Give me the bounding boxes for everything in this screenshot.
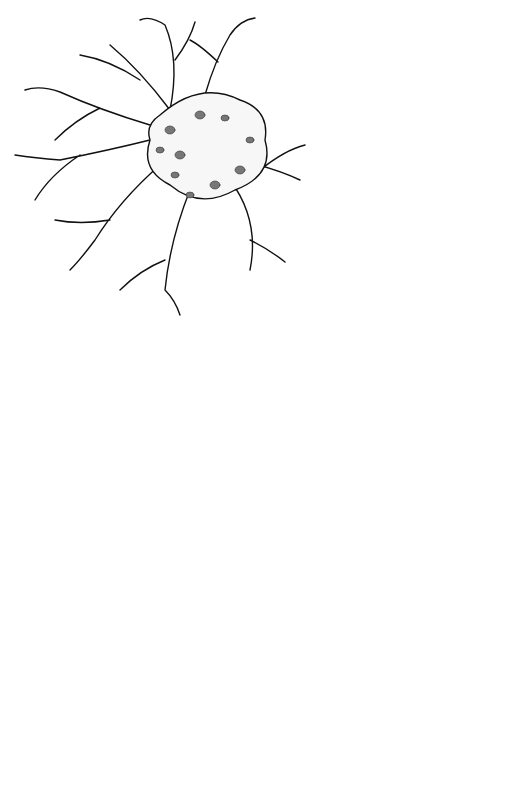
- neuron-illustration: [0, 0, 521, 802]
- neuron-diagram: [0, 0, 521, 802]
